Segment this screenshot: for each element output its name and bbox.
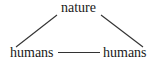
node-humans-left: humans [10,46,54,60]
edge-nature-humans-left [16,15,57,47]
node-humans-right: humans [103,46,147,60]
edge-nature-humans-right [101,15,143,47]
node-nature: nature [61,1,96,15]
